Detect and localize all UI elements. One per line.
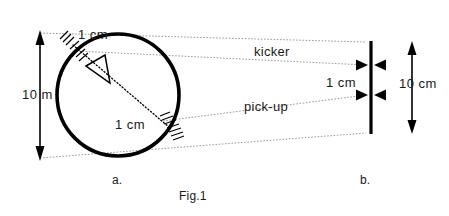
leader-kicker-lower (76, 51, 366, 65)
figure-diagram (0, 0, 449, 216)
leader-lines (40, 33, 366, 158)
label-pickup: pick-up (244, 100, 288, 113)
figure-caption: Fig.1 (179, 190, 207, 202)
label-kicker: kicker (254, 45, 290, 58)
leader-pickup-lower (40, 133, 366, 158)
label-detail-segment: 1 cm (326, 76, 356, 89)
pointer-dotted-line (73, 45, 170, 128)
label-segment-top: 1 cm (78, 28, 108, 41)
label-panel-a: a. (112, 174, 122, 186)
label-segment-bottom: 1 cm (115, 118, 145, 131)
pipe-circle (57, 34, 179, 156)
label-panel-b: b. (360, 174, 370, 186)
label-circle-diameter: 10 m (22, 88, 53, 101)
label-detail-height: 10 cm (399, 77, 437, 90)
panel-a (36, 30, 185, 161)
